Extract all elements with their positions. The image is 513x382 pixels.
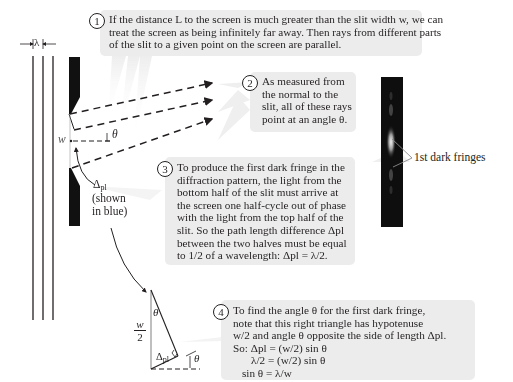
callout-1-line-2: treat the screen as being infinitely far… <box>109 26 443 39</box>
triangle-delta-label: Δpl <box>156 351 169 362</box>
callout-4-line-5: λ/2 = (w/2) sin θ <box>233 354 446 367</box>
callout-3: 3 To produce the first dark fringe in th… <box>165 157 355 265</box>
callout-4-line-2: note that this right triangle has hypote… <box>233 317 446 330</box>
callout-2-number: 2 <box>242 75 258 91</box>
dark-fringes-label: 1st dark fringes <box>414 151 486 163</box>
shown-in-blue-line1: (shown <box>92 192 126 204</box>
callout-2-line-1: As measured from <box>262 75 352 88</box>
callout-2-line-4: point at an angle θ. <box>262 113 352 126</box>
callout-3-line-7: between the two halves must be equal <box>177 237 347 250</box>
callout-4-line-1: To find the angle θ for the first dark f… <box>233 304 446 317</box>
ray-angle-label: θ <box>112 128 118 140</box>
callout-4-line-3: w/2 and angle θ opposite the side of len… <box>233 329 446 342</box>
callout-4-text: To find the angle θ for the first dark f… <box>233 304 446 380</box>
callout-1-number: 1 <box>89 13 105 29</box>
callout-1-line-3: of the slit to a given point on the scre… <box>109 38 443 51</box>
callout-2-text: As measured from the normal to the slit,… <box>262 75 352 125</box>
triangle-delta-subscript: pl <box>163 355 169 364</box>
slit-width-label: w <box>58 133 66 145</box>
callout-3-line-6: slit. So the path length difference Δpl <box>177 224 347 237</box>
fraction-denominator: 2 <box>134 331 146 343</box>
callout-4-line-4: So: Δpl = (w/2) sin θ <box>233 342 446 355</box>
callout-4-line-6: sin θ = λ/w <box>233 367 446 380</box>
callout-3-line-4: the screen one half-cycle out of phase <box>177 199 347 212</box>
callout-4: 4 To find the angle θ for the first dark… <box>221 300 475 380</box>
callout-3-text: To produce the first dark fringe in the … <box>177 161 347 262</box>
triangle-delta-symbol: Δ <box>156 351 163 362</box>
w-over-2-fraction: w 2 <box>134 318 146 343</box>
callout-2-line-2: the normal to the <box>262 88 352 101</box>
triangle-angle-label: θ <box>194 352 199 364</box>
callout-3-line-8: to 1/2 of a wavelength: Δpl = λ/2. <box>177 249 347 262</box>
callout-4-number: 4 <box>213 304 229 320</box>
callout-3-line-2: diffraction pattern, the light from the <box>177 174 347 187</box>
callout-3-line-1: To produce the first dark fringe in the <box>177 161 347 174</box>
lambda-label: λ <box>34 36 39 48</box>
wavefronts <box>33 56 53 320</box>
triangle-theta-label: θ <box>153 306 158 318</box>
callout-3-line-3: bottom half of the slit must arrive at <box>177 186 347 199</box>
callout-2: 2 As measured from the normal to the sli… <box>250 72 356 132</box>
callout-1-line-1: If the distance L to the screen is much … <box>109 13 443 26</box>
shown-in-blue-line2: in blue) <box>92 205 127 217</box>
callout-3-number: 3 <box>157 161 173 177</box>
callout-1-text: If the distance L to the screen is much … <box>109 13 443 51</box>
callout-3-line-5: with the light from the top half of the <box>177 211 347 224</box>
callout-2-line-3: slit, all of these rays <box>262 100 352 113</box>
triangle-pointer-arrow <box>111 228 146 292</box>
delta-subscript: pl <box>100 183 106 192</box>
path-difference-label: Δpl <box>93 178 107 190</box>
fraction-numerator: w <box>134 318 146 331</box>
single-slit-diffraction-diagram: λ w θ Δpl (shown in blue) 1st dark fring… <box>0 0 513 382</box>
callout-1: 1 If the distance L to the screen is muc… <box>100 10 422 56</box>
